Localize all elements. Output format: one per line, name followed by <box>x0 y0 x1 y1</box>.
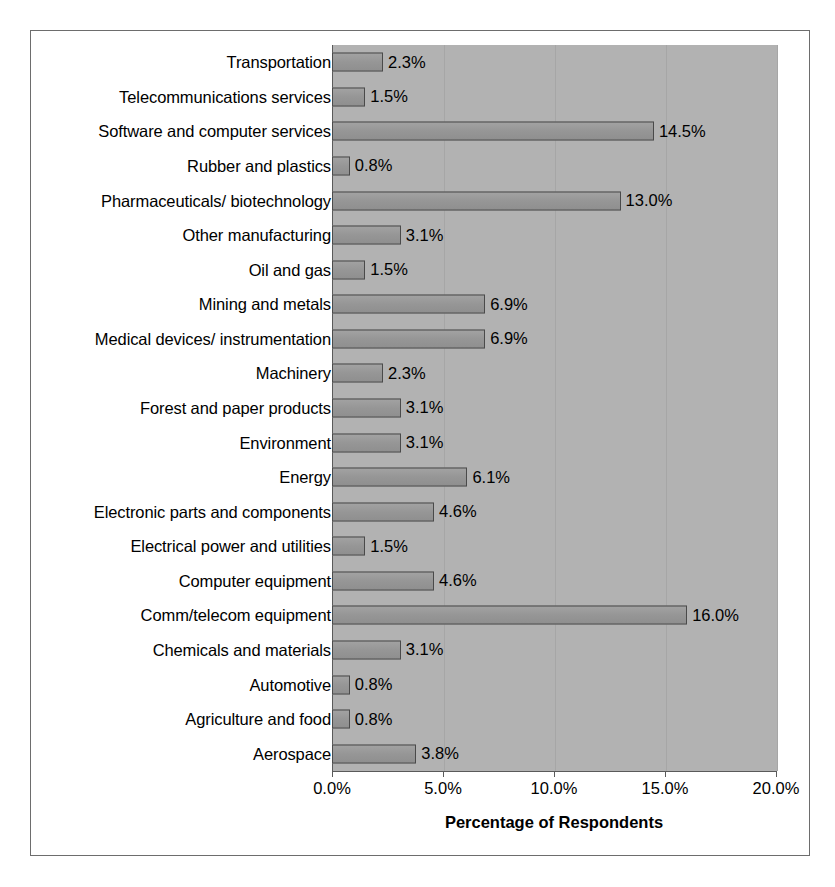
bar[interactable] <box>332 675 350 694</box>
bar[interactable] <box>332 295 485 314</box>
bar-row: Aerospace3.8% <box>31 736 811 771</box>
bar-holder: 0.8% <box>332 710 350 729</box>
bar-value-label: 14.5% <box>659 122 706 141</box>
bar-value-label: 6.9% <box>490 295 528 314</box>
category-label: Electrical power and utilities <box>130 537 331 556</box>
bar-value-label: 1.5% <box>370 260 408 279</box>
bar-row: Machinery2.3% <box>31 356 811 391</box>
bar-holder: 3.1% <box>332 433 401 452</box>
bar[interactable] <box>332 53 383 72</box>
bar[interactable] <box>332 744 416 763</box>
bar-holder: 0.8% <box>332 675 350 694</box>
x-axis-title: Percentage of Respondents <box>332 813 776 832</box>
category-label: Automotive <box>249 675 331 694</box>
bar[interactable] <box>332 537 365 556</box>
category-label: Energy <box>279 468 331 487</box>
category-label: Computer equipment <box>179 571 331 590</box>
bar-holder: 0.8% <box>332 156 350 175</box>
bar-value-label: 3.1% <box>406 226 444 245</box>
bar[interactable] <box>332 606 687 625</box>
bar-holder: 1.5% <box>332 87 365 106</box>
bar-row: Chemicals and materials3.1% <box>31 633 811 668</box>
category-label: Comm/telecom equipment <box>141 606 331 625</box>
bar-row: Transportation2.3% <box>31 45 811 80</box>
bar[interactable] <box>332 640 401 659</box>
bar[interactable] <box>332 710 350 729</box>
bar-value-label: 3.1% <box>406 433 444 452</box>
bar[interactable] <box>332 226 401 245</box>
bar[interactable] <box>332 468 467 487</box>
x-axis-tick <box>443 771 444 777</box>
bar-holder: 1.5% <box>332 260 365 279</box>
bar-holder: 3.1% <box>332 398 401 417</box>
bar-value-label: 0.8% <box>355 156 393 175</box>
bar-value-label: 0.8% <box>355 710 393 729</box>
x-axis-tick <box>332 771 333 777</box>
x-axis-tick <box>776 771 777 777</box>
bar-row: Electronic parts and components4.6% <box>31 494 811 529</box>
bar-row: Comm/telecom equipment16.0% <box>31 598 811 633</box>
bar-value-label: 2.3% <box>388 53 426 72</box>
bar-row: Agriculture and food0.8% <box>31 702 811 737</box>
bar-value-label: 0.8% <box>355 675 393 694</box>
bar-value-label: 1.5% <box>370 87 408 106</box>
x-axis-tick <box>665 771 666 777</box>
bar-holder: 2.3% <box>332 364 383 383</box>
bar-value-label: 3.1% <box>406 398 444 417</box>
bar-value-label: 4.6% <box>439 571 477 590</box>
x-axis-tick <box>554 771 555 777</box>
bar-holder: 3.1% <box>332 640 401 659</box>
bar[interactable] <box>332 502 434 521</box>
category-label: Forest and paper products <box>140 398 331 417</box>
category-label: Mining and metals <box>199 295 331 314</box>
bar-row: Computer equipment4.6% <box>31 564 811 599</box>
bar-row: Rubber and plastics0.8% <box>31 149 811 184</box>
bar[interactable] <box>332 364 383 383</box>
bar-row: Environment3.1% <box>31 425 811 460</box>
bar[interactable] <box>332 571 434 590</box>
bar-value-label: 3.1% <box>406 640 444 659</box>
category-label: Software and computer services <box>98 122 331 141</box>
bar-holder: 2.3% <box>332 53 383 72</box>
bar[interactable] <box>332 329 485 348</box>
x-axis-tick-label: 15.0% <box>642 779 689 798</box>
category-label: Rubber and plastics <box>187 156 331 175</box>
bar-holder: 1.5% <box>332 537 365 556</box>
bar-row: Forest and paper products3.1% <box>31 391 811 426</box>
bar[interactable] <box>332 433 401 452</box>
bar-holder: 6.9% <box>332 295 485 314</box>
x-axis-tick-label: 10.0% <box>531 779 578 798</box>
category-label: Aerospace <box>253 744 331 763</box>
category-label: Medical devices/ instrumentation <box>95 329 331 348</box>
bar-row: Telecommunications services1.5% <box>31 80 811 115</box>
bar[interactable] <box>332 191 621 210</box>
bar-holder: 4.6% <box>332 571 434 590</box>
bar-row: Medical devices/ instrumentation6.9% <box>31 322 811 357</box>
bar[interactable] <box>332 87 365 106</box>
bar[interactable] <box>332 122 654 141</box>
bar-row: Oil and gas1.5% <box>31 252 811 287</box>
bar-value-label: 6.9% <box>490 329 528 348</box>
bar-row: Pharmaceuticals/ biotechnology13.0% <box>31 183 811 218</box>
bar-row: Automotive0.8% <box>31 667 811 702</box>
bar-value-label: 4.6% <box>439 502 477 521</box>
bar-value-label: 1.5% <box>370 537 408 556</box>
bar-row: Other manufacturing3.1% <box>31 218 811 253</box>
bar-value-label: 16.0% <box>692 606 739 625</box>
bar-holder: 3.8% <box>332 744 416 763</box>
bar-holder: 13.0% <box>332 191 621 210</box>
x-axis-tick-label: 5.0% <box>424 779 462 798</box>
category-label: Agriculture and food <box>185 710 331 729</box>
bar-value-label: 6.1% <box>472 468 510 487</box>
bar[interactable] <box>332 156 350 175</box>
bar-value-label: 13.0% <box>626 191 673 210</box>
bar-row: Software and computer services14.5% <box>31 114 811 149</box>
bar[interactable] <box>332 398 401 417</box>
category-label: Oil and gas <box>249 260 331 279</box>
bar-row: Mining and metals6.9% <box>31 287 811 322</box>
bar-holder: 4.6% <box>332 502 434 521</box>
bar-value-label: 3.8% <box>421 744 459 763</box>
category-label: Other manufacturing <box>182 226 331 245</box>
chart-frame: Transportation2.3%Telecommunications ser… <box>30 30 810 856</box>
bar[interactable] <box>332 260 365 279</box>
